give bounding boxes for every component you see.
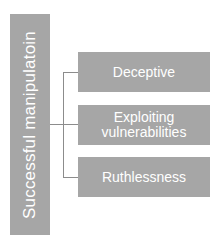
child-node-label: Exploiting vulnerabilities — [78, 110, 210, 140]
child-node-exploiting-vulnerabilities: Exploiting vulnerabilities — [78, 105, 210, 145]
child-node-label: Deceptive — [113, 65, 175, 80]
child-node-ruthlessness: Ruthlessness — [78, 157, 210, 197]
connector-stem — [50, 124, 63, 125]
child-node-label: Ruthlessness — [102, 170, 186, 185]
child-node-deceptive: Deceptive — [78, 52, 210, 92]
connector-branch-3 — [63, 177, 78, 178]
root-node-label: Successful manipulatoin — [20, 31, 40, 219]
connector-branch-2 — [63, 124, 78, 125]
connector-spine — [63, 72, 64, 178]
root-node: Successful manipulatoin — [10, 14, 50, 235]
connector-branch-1 — [63, 72, 78, 73]
